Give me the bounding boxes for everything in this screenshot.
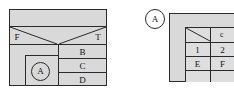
- right-callout-label: A: [152, 15, 159, 24]
- left-callout-circle-A: A: [31, 62, 50, 81]
- right-corner-label-c: c: [220, 31, 232, 39]
- left-cell-divider-c-d: [58, 72, 107, 73]
- left-label-T: T: [93, 33, 103, 42]
- left-cell-label-B: B: [58, 48, 107, 57]
- right-grid-cell-F: F: [211, 60, 234, 69]
- figure-canvas: F T B C D A A: [0, 0, 234, 94]
- left-callout-label: A: [37, 67, 44, 76]
- left-cell-label-D: D: [58, 76, 107, 85]
- left-cell-divider-b-c: [58, 58, 107, 59]
- right-callout-circle-A: A: [145, 9, 165, 29]
- left-label-F: F: [12, 33, 22, 42]
- right-grid-cell-E: E: [185, 60, 210, 69]
- right-grid-cell-1: 1: [185, 46, 210, 55]
- right-grid-cell-2: 2: [211, 46, 234, 55]
- left-cell-label-C: C: [58, 62, 107, 71]
